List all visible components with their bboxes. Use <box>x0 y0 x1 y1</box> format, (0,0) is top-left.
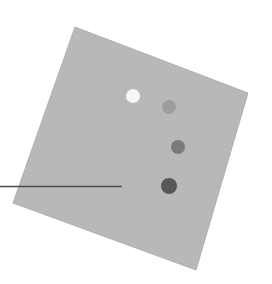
figure-root <box>0 0 272 284</box>
marker-dot-1[interactable] <box>126 89 140 103</box>
marker-dot-4[interactable] <box>161 178 177 194</box>
specimen-figure-canvas <box>0 0 272 284</box>
marker-dot-2[interactable] <box>162 100 176 114</box>
marker-dot-3[interactable] <box>171 140 185 154</box>
